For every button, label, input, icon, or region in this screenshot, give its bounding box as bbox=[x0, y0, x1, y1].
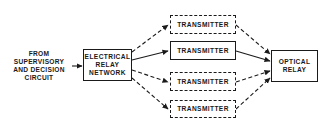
arrow-electrical-to-tx1 bbox=[132, 25, 168, 52]
arrow-tx2-to-optical bbox=[236, 51, 270, 61]
transmitter-box-2: TRANSMITTER bbox=[170, 41, 236, 60]
arrow-electrical-to-tx2 bbox=[132, 51, 168, 60]
transmitter-box-1: TRANSMITTER bbox=[170, 15, 236, 34]
transmitter-box-4: TRANSMITTER bbox=[170, 100, 236, 118]
source-label: FROM SUPERVISORY AND DECISION CIRCUIT bbox=[8, 50, 70, 82]
transmitter-box-3: TRANSMITTER bbox=[170, 72, 236, 91]
electrical-relay-network-box: ELECTRICAL RELAY NETWORK bbox=[83, 49, 132, 81]
arrow-tx3-to-optical bbox=[236, 71, 270, 82]
arrow-electrical-to-tx4 bbox=[132, 78, 168, 109]
optical-relay-box: OPTICAL RELAY bbox=[271, 50, 318, 82]
arrow-tx4-to-optical bbox=[236, 78, 270, 109]
arrow-electrical-to-tx3 bbox=[132, 70, 168, 82]
arrow-tx1-to-optical bbox=[236, 25, 270, 54]
